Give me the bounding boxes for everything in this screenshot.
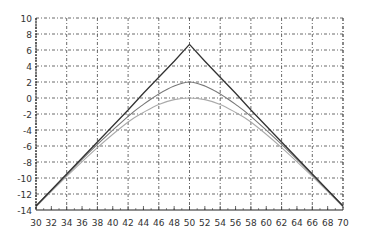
y-tick-label: -14 (17, 206, 32, 216)
x-tick-label: 30 (30, 218, 42, 228)
x-tick-label: 48 (168, 218, 180, 228)
x-tick-label: 52 (199, 218, 210, 228)
x-tick-label: 70 (337, 218, 349, 228)
x-tick-label: 68 (322, 218, 334, 228)
grid-lines (36, 18, 343, 210)
y-tick-label: -6 (23, 142, 32, 152)
y-tick-label: 10 (21, 14, 33, 24)
x-tick-label: 60 (261, 218, 273, 228)
y-tick-label: -2 (23, 110, 32, 120)
y-tick-label: -8 (23, 158, 32, 168)
x-tick-label: 44 (138, 218, 150, 228)
y-tick-label: -4 (23, 126, 32, 136)
x-tick-label: 62 (276, 218, 287, 228)
y-tick-label: -10 (17, 174, 32, 184)
x-tick-label: 46 (153, 218, 165, 228)
x-tick-label: 32 (46, 218, 57, 228)
x-tick-label: 40 (107, 218, 119, 228)
x-tick-label: 42 (122, 218, 133, 228)
y-tick-label: 0 (26, 94, 32, 104)
x-tick-label: 56 (230, 218, 242, 228)
x-tick-label: 54 (214, 218, 226, 228)
x-tick-label: 50 (184, 218, 196, 228)
y-tick-label: 8 (26, 30, 32, 40)
x-tick-label: 58 (245, 218, 257, 228)
x-tick-label: 66 (307, 218, 319, 228)
x-tick-label: 64 (291, 218, 303, 228)
y-tick-label: -12 (17, 190, 32, 200)
y-tick-label: 4 (26, 62, 32, 72)
x-axis-tick-labels: 3032343638404244464850525456586062646668… (30, 218, 349, 228)
x-tick-label: 38 (92, 218, 104, 228)
x-tick-label: 36 (76, 218, 88, 228)
y-axis-tick-labels: 1086420-2-4-6-8-10-12-14 (17, 14, 32, 216)
x-tick-label: 34 (61, 218, 73, 228)
y-tick-label: 6 (26, 46, 32, 56)
line-chart: 3032343638404244464850525456586062646668… (0, 0, 374, 247)
y-tick-label: 2 (26, 78, 32, 88)
